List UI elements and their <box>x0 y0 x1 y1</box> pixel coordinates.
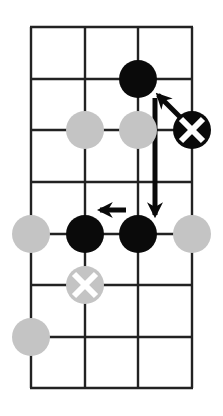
gray-stone[interactable] <box>119 111 157 149</box>
arrow-x-to-top-black-icon <box>158 95 180 117</box>
black-stone[interactable] <box>119 215 157 253</box>
gray-stone[interactable] <box>66 111 104 149</box>
gray-stone[interactable] <box>173 215 211 253</box>
gray-stone[interactable] <box>12 318 50 356</box>
black-stone[interactable] <box>66 215 104 253</box>
gray-stone[interactable] <box>12 215 50 253</box>
game-board <box>0 0 223 416</box>
black-stone[interactable] <box>119 60 157 98</box>
marked-gray-stone[interactable] <box>66 266 104 304</box>
marked-black-stone[interactable] <box>173 111 211 149</box>
